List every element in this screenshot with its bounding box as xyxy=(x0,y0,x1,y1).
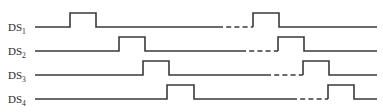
signal-labels-group: DS1DS2DS3DS4 xyxy=(8,21,26,108)
waveform-ds3-segment-right xyxy=(303,61,377,75)
waveform-canvas: DS1DS2DS3DS4 xyxy=(0,0,383,112)
signal-label-ds2: DS2 xyxy=(8,45,26,60)
waveform-ds1-segment-left xyxy=(35,13,218,27)
waveform-ds2-segment-left xyxy=(35,37,241,51)
signal-label-ds4: DS4 xyxy=(8,93,26,108)
waveform-ds1-segment-right xyxy=(253,13,377,27)
waveform-ds4-segment-right xyxy=(328,85,377,99)
signal-waveforms-group xyxy=(35,13,377,99)
waveform-ds4-segment-left xyxy=(35,85,292,99)
waveform-ds3-segment-left xyxy=(35,61,266,75)
signal-label-ds1: DS1 xyxy=(8,21,26,36)
timing-diagram-figure: DS1DS2DS3DS4 xyxy=(0,0,383,112)
waveform-ds2-segment-right xyxy=(278,37,377,51)
signal-label-ds3: DS3 xyxy=(8,69,26,84)
